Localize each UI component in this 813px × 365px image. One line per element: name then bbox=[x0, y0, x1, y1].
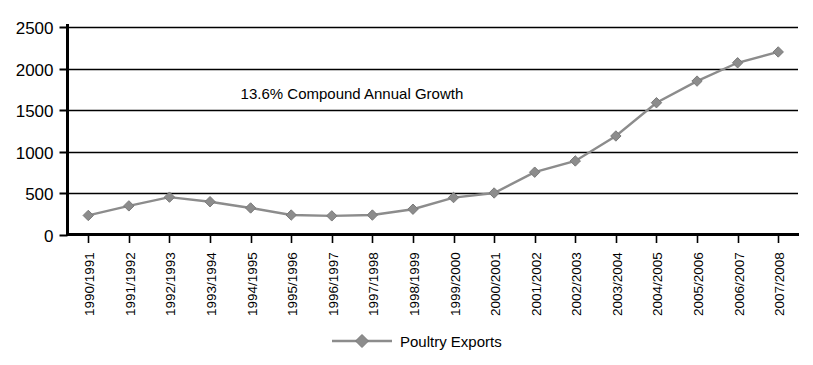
x-tick-label: 2003/2004 bbox=[610, 252, 625, 316]
growth-annotation: 13.6% Compound Annual Growth bbox=[241, 85, 464, 102]
x-tick-label: 2001/2002 bbox=[529, 252, 544, 316]
x-tick-label: 1991/1992 bbox=[123, 252, 138, 316]
x-tick-label: 1995/1996 bbox=[285, 252, 300, 316]
x-tick-label: 1990/1991 bbox=[82, 252, 97, 316]
x-tick-label: 1994/1995 bbox=[245, 252, 260, 316]
x-tick-label: 2002/2003 bbox=[569, 252, 584, 316]
x-tick-label: 2004/2005 bbox=[650, 252, 665, 316]
x-tick-label: 1996/1997 bbox=[326, 252, 341, 316]
legend-label-poultry-exports: Poultry Exports bbox=[400, 333, 502, 350]
y-tick-label: 2500 bbox=[16, 19, 54, 38]
y-tick-label: 1000 bbox=[16, 144, 54, 163]
x-tick-label: 1992/1993 bbox=[163, 252, 178, 316]
x-tick-label: 2007/2008 bbox=[772, 252, 787, 316]
poultry-exports-chart: 05001000150020002500 1990/19911991/19921… bbox=[0, 0, 813, 365]
x-tick-label: 2006/2007 bbox=[732, 252, 747, 316]
y-tick-label: 0 bbox=[44, 227, 53, 246]
x-tick-label: 2000/2001 bbox=[488, 252, 503, 316]
x-tick-label: 1998/1999 bbox=[407, 252, 422, 316]
y-tick-label: 2000 bbox=[16, 61, 54, 80]
x-tick-label: 1999/2000 bbox=[448, 252, 463, 316]
x-tick-label: 2005/2006 bbox=[691, 252, 706, 316]
x-tick-label: 1993/1994 bbox=[204, 252, 219, 316]
x-tick-label: 1997/1998 bbox=[366, 252, 381, 316]
chart-canvas: 05001000150020002500 1990/19911991/19921… bbox=[0, 0, 813, 365]
y-tick-label: 1500 bbox=[16, 102, 54, 121]
y-tick-label: 500 bbox=[25, 185, 53, 204]
